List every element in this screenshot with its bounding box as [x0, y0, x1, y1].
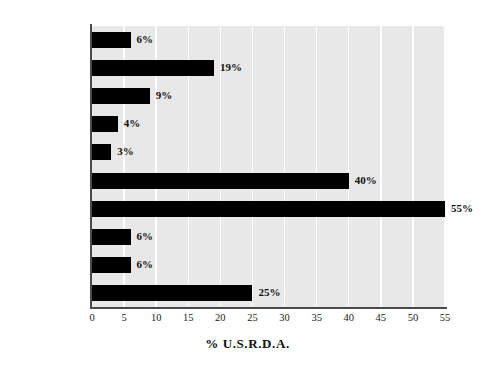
bar[interactable]	[92, 257, 131, 273]
bar-value-label: 19%	[220, 59, 242, 75]
bar-row: 25%	[0, 279, 495, 307]
bar[interactable]	[92, 173, 349, 189]
bar-row: 3%	[0, 138, 495, 166]
bar-value-label: 6%	[137, 31, 154, 47]
x-axis-line	[90, 307, 447, 309]
bar-value-label: 6%	[137, 228, 154, 244]
bar-row: 6%	[0, 26, 495, 54]
bar-row: 9%	[0, 82, 495, 110]
bar[interactable]	[92, 144, 111, 160]
bar-row: 4%	[0, 110, 495, 138]
bar-row: 6%	[0, 251, 495, 279]
bar-row: 55%	[0, 195, 495, 223]
bar-value-label: 55%	[451, 200, 473, 216]
bar-row: 6%	[0, 223, 495, 251]
bar[interactable]	[92, 285, 252, 301]
bar-row: 19%	[0, 54, 495, 82]
x-axis-title: % U.S.R.D.A.	[0, 336, 495, 352]
bar-value-label: 6%	[137, 256, 154, 272]
bar[interactable]	[92, 32, 131, 48]
x-tick-label: 55	[425, 312, 465, 323]
bar[interactable]	[92, 60, 214, 76]
bar-row: 40%	[0, 167, 495, 195]
bar-value-label: 4%	[124, 115, 141, 131]
bar-value-label: 9%	[156, 87, 173, 103]
bar[interactable]	[92, 229, 131, 245]
bar-value-label: 40%	[355, 172, 377, 188]
bar-value-label: 3%	[117, 143, 134, 159]
bar[interactable]	[92, 116, 118, 132]
bar-value-label: 25%	[258, 284, 280, 300]
bar[interactable]	[92, 201, 445, 217]
bar[interactable]	[92, 88, 150, 104]
bar-chart-figure: 6%19%9%4%3%40%55%6%6%25% CALORIESPROTEIN…	[0, 0, 495, 366]
